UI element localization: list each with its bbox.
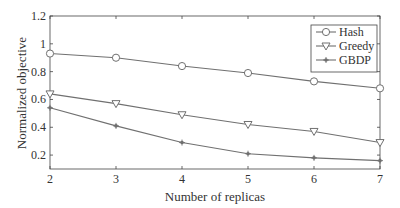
legend-label: Greedy	[339, 39, 374, 53]
y-tick-label: 0.4	[31, 120, 46, 134]
line-chart: 2345670.20.40.60.811.2 HashGreedyGBDP Nu…	[0, 0, 400, 208]
y-tick-label: 0.8	[31, 65, 46, 79]
y-tick-label: 0.6	[31, 92, 46, 106]
x-tick-label: 7	[377, 172, 383, 186]
legend-label: Hash	[339, 25, 364, 39]
y-tick-label: 1	[40, 37, 46, 51]
x-tick-label: 5	[245, 172, 251, 186]
x-axis-label: Number of replicas	[165, 189, 265, 204]
legend: HashGreedyGBDP	[311, 25, 377, 72]
series-greedy	[46, 91, 384, 147]
legend-label: GBDP	[339, 53, 371, 67]
y-axis-label: Normalized objective	[14, 37, 29, 149]
y-tick-label: 1.2	[31, 9, 46, 23]
x-tick-label: 2	[47, 172, 53, 186]
y-tick-label: 0.2	[31, 148, 46, 162]
x-tick-label: 4	[179, 172, 185, 186]
x-tick-label: 6	[311, 172, 317, 186]
x-tick-label: 3	[113, 172, 119, 186]
